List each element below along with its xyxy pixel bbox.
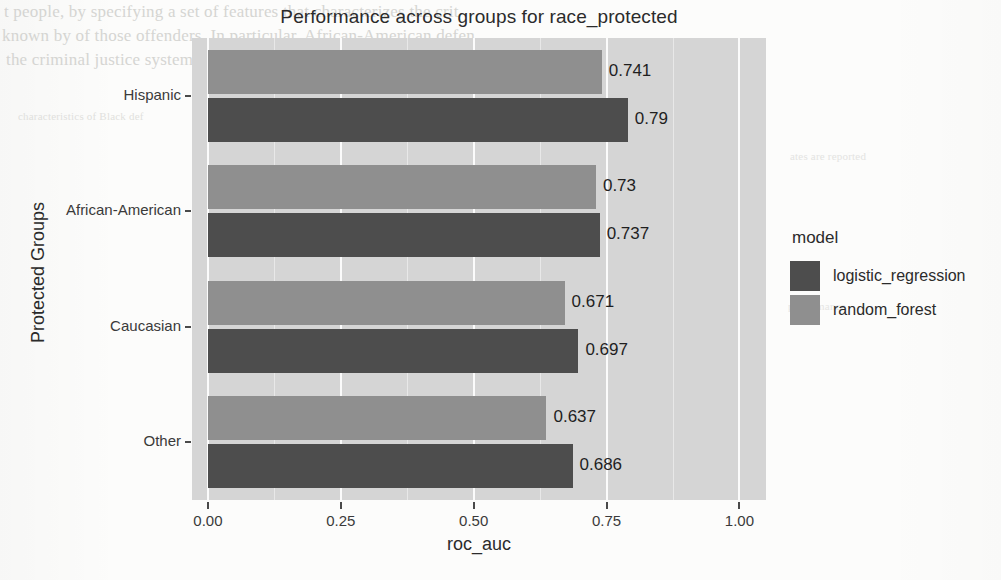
bar-random_forest-african-american[interactable] [208, 165, 596, 209]
x-tick-mark [473, 502, 475, 509]
bar-value-label: 0.737 [607, 224, 650, 244]
bar-value-label: 0.697 [585, 340, 628, 360]
bar-logistic_regression-caucasian[interactable] [208, 329, 578, 373]
legend-entries: logistic_regressionrandom_forest [790, 259, 966, 327]
bar-random_forest-hispanic[interactable] [208, 50, 602, 94]
x-axis-title: roc_auc [192, 534, 766, 555]
x-tick-label: 1.00 [709, 512, 769, 529]
legend-swatch-icon [790, 261, 820, 291]
y-tick-label-hispanic: Hispanic [123, 86, 181, 103]
gridline-major [738, 38, 740, 500]
legend: model logistic_regressionrandom_forest [790, 228, 966, 327]
y-tick-mark [185, 95, 191, 97]
y-tick-mark [185, 441, 191, 443]
y-tick-mark [185, 326, 191, 328]
legend-item-logistic_regression[interactable]: logistic_regression [790, 259, 966, 293]
x-tick-label: 0.25 [311, 512, 371, 529]
legend-item-random_forest[interactable]: random_forest [790, 293, 966, 327]
bar-chart: Performance across groups for race_prote… [0, 0, 1001, 580]
x-tick-label: 0.50 [444, 512, 504, 529]
plot-panel: 0.7410.790.730.7370.6710.6970.6370.686 [192, 38, 766, 500]
y-tick-mark [185, 210, 191, 212]
bar-value-label: 0.741 [609, 61, 652, 81]
legend-swatch-icon [790, 295, 820, 325]
legend-label: logistic_regression [833, 267, 966, 285]
chart-title: Performance across groups for race_prote… [192, 6, 766, 28]
bar-random_forest-caucasian[interactable] [208, 281, 565, 325]
gridline-minor [673, 38, 674, 500]
x-tick-mark [340, 502, 342, 509]
legend-label: random_forest [833, 301, 936, 319]
bar-logistic_regression-other[interactable] [208, 444, 573, 488]
scanned-page-background: t people, by specifying a set of feature… [0, 0, 1001, 580]
y-axis-title: Protected Groups [28, 143, 49, 403]
x-tick-mark [207, 502, 209, 509]
bar-value-label: 0.79 [635, 109, 668, 129]
x-tick-label: 0.00 [178, 512, 238, 529]
x-tick-label: 0.75 [577, 512, 637, 529]
bar-logistic_regression-african-american[interactable] [208, 213, 600, 257]
y-tick-label-african-american: African-American [66, 201, 181, 218]
y-tick-label-other: Other [143, 432, 181, 449]
bar-value-label: 0.671 [572, 292, 615, 312]
bar-logistic_regression-hispanic[interactable] [208, 98, 628, 142]
bar-value-label: 0.637 [553, 407, 596, 427]
y-tick-label-caucasian: Caucasian [110, 317, 181, 334]
bar-random_forest-other[interactable] [208, 396, 547, 440]
bar-value-label: 0.686 [580, 455, 623, 475]
legend-title: model [792, 228, 966, 248]
x-tick-mark [606, 502, 608, 509]
bar-value-label: 0.73 [603, 176, 636, 196]
x-tick-mark [738, 502, 740, 509]
